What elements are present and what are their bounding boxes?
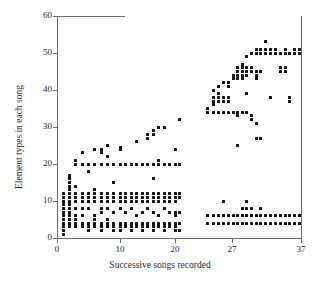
data-point [269, 214, 272, 217]
data-point [112, 181, 115, 184]
data-point [68, 196, 71, 199]
data-point [112, 225, 115, 228]
data-point [68, 181, 71, 184]
data-point [74, 200, 77, 203]
data-point [168, 163, 171, 166]
data-point [250, 52, 253, 55]
data-point [293, 52, 296, 55]
x-tick [175, 239, 176, 243]
data-point [163, 222, 166, 225]
data-point [174, 222, 177, 225]
data-point [279, 66, 282, 69]
data-point [250, 214, 253, 217]
data-point [245, 55, 248, 58]
data-point [81, 200, 84, 203]
data-point [74, 185, 77, 188]
data-point [62, 225, 65, 228]
data-point [100, 229, 103, 232]
data-point [250, 66, 253, 69]
data-point [141, 163, 144, 166]
data-point [146, 192, 149, 195]
data-point [87, 163, 90, 166]
data-point [245, 92, 248, 95]
data-point [135, 200, 138, 203]
data-point [146, 207, 149, 210]
data-point [106, 192, 109, 195]
data-point [227, 111, 230, 114]
data-point [168, 211, 171, 214]
data-point [163, 192, 166, 195]
data-point [284, 70, 287, 73]
data-point [81, 151, 84, 154]
data-point [212, 214, 215, 217]
data-point [298, 222, 301, 225]
data-point [236, 111, 239, 114]
data-point [174, 192, 177, 195]
data-point [81, 207, 84, 210]
data-point [68, 211, 71, 214]
data-point [130, 207, 133, 210]
data-point [222, 96, 225, 99]
data-point [217, 92, 220, 95]
data-point [141, 192, 144, 195]
data-point [245, 200, 248, 203]
data-point [87, 170, 90, 173]
data-point [100, 200, 103, 203]
data-point [112, 163, 115, 166]
data-point [100, 192, 103, 195]
data-point [245, 214, 248, 217]
data-point [288, 222, 291, 225]
data-point [124, 200, 127, 203]
data-point [119, 192, 122, 195]
data-point [232, 74, 235, 77]
data-point [157, 225, 160, 228]
data-point [81, 196, 84, 199]
data-point [152, 229, 155, 232]
data-point [157, 192, 160, 195]
data-point [68, 200, 71, 203]
data-point [135, 140, 138, 143]
data-point [206, 111, 209, 114]
data-point [74, 163, 77, 166]
data-point [62, 214, 65, 217]
data-point [232, 111, 235, 114]
data-point [279, 70, 282, 73]
data-point [206, 214, 209, 217]
data-point [68, 218, 71, 221]
data-point [250, 222, 253, 225]
data-point [62, 207, 65, 210]
data-point [106, 200, 109, 203]
data-point [152, 222, 155, 225]
data-point [293, 222, 296, 225]
data-point [93, 196, 96, 199]
y-tick [53, 127, 57, 128]
data-point [130, 225, 133, 228]
data-point [93, 192, 96, 195]
data-point [245, 74, 248, 77]
data-point [74, 214, 77, 217]
data-point [241, 222, 244, 225]
data-point [68, 203, 71, 206]
data-point [130, 222, 133, 225]
data-point [227, 81, 230, 84]
data-point [152, 192, 155, 195]
data-point [298, 52, 301, 55]
data-point [81, 214, 84, 217]
data-point [259, 214, 262, 217]
data-point [130, 229, 133, 232]
data-point [227, 222, 230, 225]
data-point [241, 77, 244, 80]
data-point [106, 218, 109, 221]
data-point [269, 48, 272, 51]
data-point [298, 48, 301, 51]
data-point [152, 177, 155, 180]
data-point [106, 196, 109, 199]
data-point [241, 63, 244, 66]
data-point [157, 222, 160, 225]
data-point [174, 214, 177, 217]
data-point [241, 66, 244, 69]
right-spine-line [301, 16, 302, 239]
data-point [274, 48, 277, 51]
data-point [255, 122, 258, 125]
data-point [288, 100, 291, 103]
